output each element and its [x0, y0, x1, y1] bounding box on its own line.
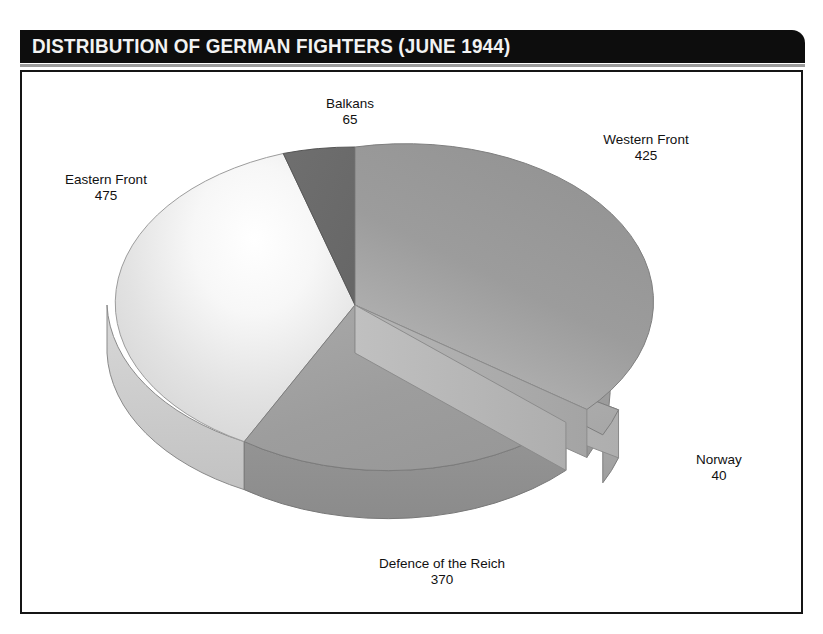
pie-label-western-front: Western Front 425 — [578, 132, 714, 163]
pie-label-defence-of-the-reich: Defence of the Reich 370 — [352, 556, 532, 587]
pie-3d-body — [107, 144, 654, 519]
pie-label-balkans-value: 65 — [302, 112, 398, 128]
pie-label-balkans-name: Balkans — [326, 96, 374, 111]
pie-label-norway: Norway 40 — [676, 452, 762, 483]
pie-label-eastern-front: Eastern Front 475 — [40, 172, 172, 203]
pie-label-western-front-name: Western Front — [603, 132, 688, 147]
pie-label-defence-of-the-reich-value: 370 — [352, 572, 532, 588]
pie-label-eastern-front-name: Eastern Front — [65, 172, 147, 187]
figure-container: DISTRIBUTION OF GERMAN FIGHTERS (JUNE 19… — [0, 0, 823, 634]
pie-label-defence-of-the-reich-name: Defence of the Reich — [379, 556, 505, 571]
pie-label-western-front-value: 425 — [578, 148, 714, 164]
pie-label-norway-name: Norway — [696, 452, 742, 467]
pie-label-eastern-front-value: 475 — [40, 188, 172, 204]
pie-chart — [0, 0, 823, 634]
pie-label-balkans: Balkans 65 — [302, 96, 398, 127]
pie-label-norway-value: 40 — [676, 468, 762, 484]
